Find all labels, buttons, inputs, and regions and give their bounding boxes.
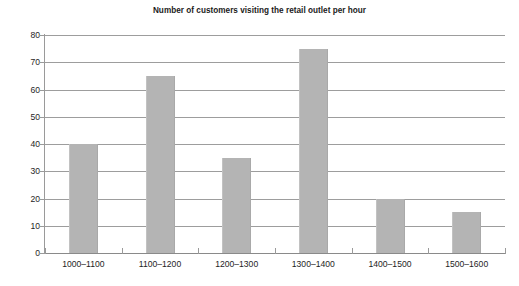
- x-axis-tick-mark: [45, 248, 46, 254]
- x-axis-tick-mark: [198, 248, 199, 254]
- x-axis-category-label: 1400–1500: [352, 259, 429, 270]
- x-axis-category-label: 1100–1200: [122, 259, 199, 270]
- bar-chart: Number of customers visiting the retail …: [0, 0, 519, 286]
- x-axis-category-label: 1200–1300: [198, 259, 275, 270]
- x-axis-tick-mark: [352, 248, 353, 254]
- x-axis-ticks-and-labels: 1000–11001100–12001200–13001300–14001400…: [0, 0, 519, 286]
- x-axis-tick-mark: [505, 248, 506, 254]
- x-axis-category-label: 1500–1600: [428, 259, 505, 270]
- x-axis-category-label: 1300–1400: [275, 259, 352, 270]
- x-axis-tick-mark: [275, 248, 276, 254]
- x-axis-category-label: 1000–1100: [45, 259, 122, 270]
- x-axis-tick-mark: [122, 248, 123, 254]
- x-axis-tick-mark: [428, 248, 429, 254]
